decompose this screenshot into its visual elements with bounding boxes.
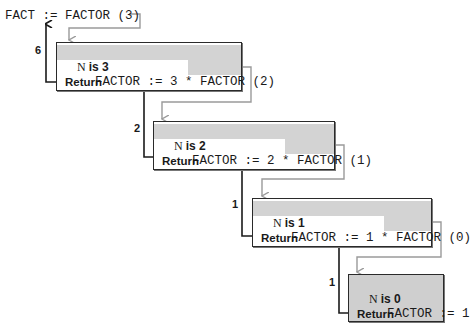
- frame-header: N is 0: [349, 277, 443, 292]
- activation-frame-n1: N is 1 FACTOR := 1 * FACTOR (0) Return: [252, 198, 432, 247]
- activation-frame-n0: N is 0 FACTOR := 1 Return: [348, 274, 444, 322]
- return-arrow-0: [46, 24, 56, 82]
- return-value-label-3: 1: [329, 276, 335, 288]
- return-text: Return: [57, 75, 241, 90]
- frame-statement: FACTOR := 3 * FACTOR (2): [57, 60, 241, 75]
- activation-frame-n3: N is 3 FACTOR := 3 * FACTOR (2) Return: [56, 42, 242, 91]
- initial-call: FACT := FACTOR (3): [5, 9, 140, 23]
- frame-statement: FACTOR := 2 * FACTOR (1): [154, 139, 334, 154]
- return-value-label-1: 2: [134, 122, 140, 134]
- return-value-label-0: 6: [35, 44, 41, 56]
- return-value-label-2: 1: [232, 198, 238, 210]
- frame-header: N is 3: [57, 45, 241, 60]
- return-text: Return: [349, 307, 443, 322]
- frame-header: N is 1: [253, 201, 431, 216]
- activation-frame-n2: N is 2 FACTOR := 2 * FACTOR (1) Return: [153, 121, 335, 170]
- return-text: Return: [154, 154, 334, 169]
- frame-statement: FACTOR := 1: [349, 292, 443, 307]
- frame-header: N is 2: [154, 124, 334, 139]
- return-text: Return: [253, 231, 431, 246]
- frame-statement: FACTOR := 1 * FACTOR (0): [253, 216, 431, 231]
